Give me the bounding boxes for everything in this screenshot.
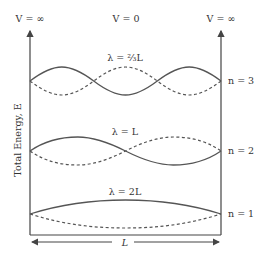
quantum-number-n2: n = 2 <box>228 145 254 156</box>
wave-n2-dashed <box>30 137 221 165</box>
wavelength-label-n3: λ = ⅔L <box>107 52 143 63</box>
middle-potential-label: V = 0 <box>112 13 140 24</box>
quantum-number-n3: n = 3 <box>228 75 254 86</box>
quantum-number-n1: n = 1 <box>228 208 254 219</box>
energy-axis-label-text: Total Energy, E <box>12 103 23 176</box>
wave-n1-solid <box>30 200 221 214</box>
wave-n3-solid <box>30 67 221 95</box>
wavelength-label-n2: λ = L <box>112 126 139 137</box>
energy-axis-label: Total Energy, E <box>12 103 23 176</box>
wavelength-label-n2-text: λ = L <box>112 126 139 137</box>
wave-n3-dashed <box>30 67 221 95</box>
wavelength-label-n1: λ = 2L <box>109 186 142 197</box>
particle-in-box-diagram: L V = ∞ V = 0 V = ∞ Total Energy, E λ = … <box>0 0 265 257</box>
length-label: L <box>121 237 128 248</box>
left-potential-label: V = ∞ <box>15 13 45 24</box>
wave-n1-dashed <box>30 214 221 228</box>
right-potential-label: V = ∞ <box>206 13 236 24</box>
